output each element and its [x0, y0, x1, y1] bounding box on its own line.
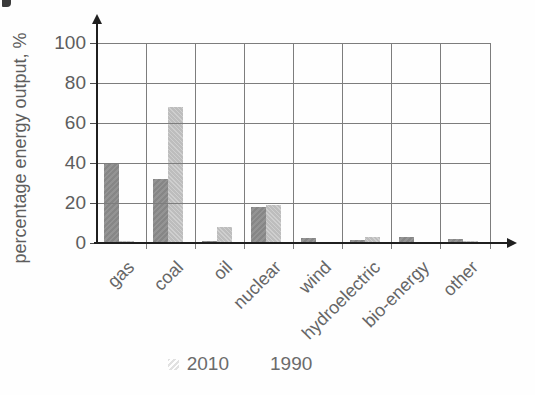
bar-coal-2010: [153, 179, 168, 243]
x-category-label-gas: gas: [103, 257, 138, 292]
x-category-label-oil: oil: [210, 257, 238, 285]
gridline-v-7: [440, 43, 441, 249]
gridline-v-1: [146, 43, 147, 249]
gridline-v-8: [490, 43, 491, 249]
y-axis-line: [96, 22, 98, 244]
legend-item-2010: 2010: [168, 353, 229, 375]
y-tick-label-60: 60: [36, 112, 86, 134]
bar-oil-1990: [217, 227, 232, 243]
gridline-v-3: [244, 43, 245, 249]
gridline-v-6: [391, 43, 392, 249]
y-tick-label-80: 80: [36, 72, 86, 94]
y-tick-label-40: 40: [36, 152, 86, 174]
legend-swatch-2010: [168, 359, 179, 370]
legend: 2010 1990: [0, 353, 480, 375]
x-category-label-wind: wind: [294, 257, 335, 298]
bar-coal-1990: [168, 107, 183, 243]
y-tick-label-20: 20: [36, 192, 86, 214]
y-tick-label-0: 0: [36, 232, 86, 254]
gridline-v-2: [195, 43, 196, 249]
x-category-label-other: other: [439, 257, 483, 301]
y-axis-arrow-icon: [92, 14, 102, 24]
y-tick-label-100: 100: [36, 32, 86, 54]
x-axis-arrow-icon: [507, 238, 517, 248]
bar-nuclear-2010: [251, 207, 266, 243]
x-category-label-coal: coal: [150, 257, 188, 295]
y-axis-title: percentage energy output, %: [10, 32, 31, 263]
gridline-v-4: [293, 43, 294, 249]
legend-item-1990: 1990: [251, 353, 312, 375]
x-category-label-nuclear: nuclear: [230, 257, 287, 314]
legend-swatch-1990: [251, 359, 262, 370]
legend-label-1990: 1990: [270, 353, 312, 375]
x-axis-line: [94, 242, 508, 244]
bar-nuclear-1990: [266, 205, 281, 243]
plot-area: 020406080100gascoaloilnuclearwindhydroel…: [0, 0, 535, 395]
gridline-v-5: [342, 43, 343, 249]
legend-label-2010: 2010: [187, 353, 229, 375]
energy-output-bar-chart: percentage energy output, % 020406080100…: [0, 0, 535, 395]
